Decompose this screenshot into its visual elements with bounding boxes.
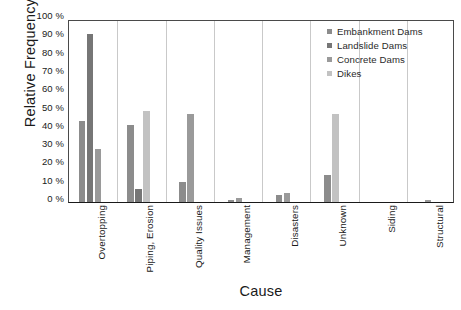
bar-group [262, 21, 310, 202]
bar-group [214, 21, 262, 202]
legend-swatch-icon [327, 71, 332, 76]
legend-item[interactable]: Concrete Dams [327, 53, 423, 66]
bar-group [117, 21, 165, 202]
legend-item[interactable]: Dikes [327, 67, 423, 80]
x-axis-tick-labels: OvertoppingPiping, ErosionQuality Issues… [68, 205, 454, 277]
legend-swatch-icon [327, 57, 332, 62]
bar[interactable] [135, 189, 142, 202]
y-axis-tick-label: 90 % [42, 28, 64, 39]
bar-group [69, 21, 117, 202]
bar[interactable] [79, 121, 86, 202]
y-axis-tick-label: 50 % [42, 101, 64, 112]
bar-group [166, 21, 214, 202]
x-axis-tick-label: Disasters [289, 205, 300, 247]
y-axis-tick-label: 30 % [42, 138, 64, 149]
legend-label: Concrete Dams [337, 54, 405, 65]
y-axis-tick-label: 100 % [37, 10, 64, 21]
x-axis-tick-label: Quality Issues [193, 205, 204, 268]
x-axis-tick-label: Structural [434, 205, 445, 248]
x-axis-tick-label: Piping, Erosion [144, 205, 155, 272]
bar[interactable] [179, 182, 186, 202]
bar[interactable] [236, 198, 243, 202]
bar[interactable] [187, 114, 194, 202]
y-axis-tick-label: 10 % [42, 174, 64, 185]
y-axis-tick-label: 40 % [42, 119, 64, 130]
legend-label: Dikes [337, 68, 362, 79]
legend-swatch-icon [327, 29, 332, 34]
x-axis-tick-label: Siding [386, 205, 397, 233]
bar[interactable] [143, 111, 150, 203]
bar[interactable] [276, 195, 283, 202]
bar[interactable] [332, 114, 339, 202]
legend-label: Embankment Dams [337, 26, 423, 37]
y-axis-tick-label: 0 % [47, 193, 64, 204]
y-axis-tick-label: 60 % [42, 83, 64, 94]
bar[interactable] [228, 200, 235, 202]
bar[interactable] [284, 193, 291, 202]
x-axis-tick-label: Overtopping [96, 205, 107, 259]
y-axis-tick-label: 70 % [42, 64, 64, 75]
legend-item[interactable]: Embankment Dams [327, 25, 423, 38]
bar[interactable] [87, 34, 94, 202]
bar[interactable] [324, 175, 331, 202]
bar[interactable] [425, 200, 432, 202]
bar[interactable] [95, 149, 102, 202]
chart-figure: Relative Frequency 0 %10 %20 %30 %40 %50… [0, 0, 461, 310]
y-axis-tick-label: 80 % [42, 46, 64, 57]
bar[interactable] [127, 125, 134, 202]
x-axis-title: Cause [68, 283, 454, 299]
y-axis-tick-label: 20 % [42, 156, 64, 167]
x-axis-tick-label: Unknown [337, 205, 348, 247]
chart-legend: Embankment DamsLandslide DamsConcrete Da… [327, 25, 423, 80]
legend-item[interactable]: Landslide Dams [327, 39, 423, 52]
x-axis-tick-label: Management [241, 205, 252, 263]
y-axis-tick-labels: 0 %10 %20 %30 %40 %50 %60 %70 %80 %90 %1… [26, 15, 64, 203]
legend-label: Landslide Dams [337, 40, 407, 51]
legend-swatch-icon [327, 43, 332, 48]
